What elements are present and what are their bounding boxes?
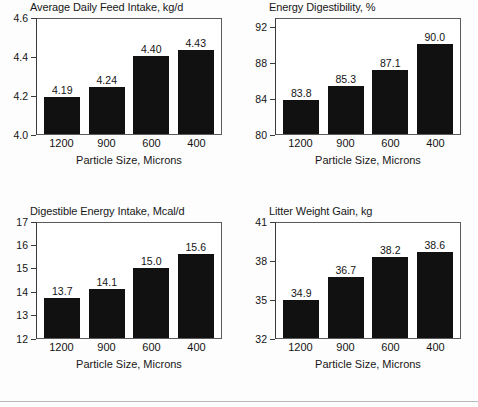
bar-value-label: 34.9 (291, 287, 311, 299)
bar: 15.0 (133, 268, 169, 338)
bar-series: 83.885.387.190.0 (276, 19, 460, 134)
x-axis-ticks: 1200900600400 (275, 340, 461, 355)
y-axis-tick-label: 15 (16, 263, 28, 274)
x-axis-tick-label: 400 (174, 340, 219, 355)
bar-series: 34.936.738.238.6 (276, 223, 460, 338)
y-axis-tick-label: 32 (255, 333, 267, 344)
bar-value-label: 83.8 (291, 87, 311, 99)
x-axis-tick-label: 600 (368, 136, 413, 151)
bar-value-label: 13.7 (52, 285, 72, 297)
x-axis-label: Particle Size, Microns (275, 154, 461, 167)
bar-value-label: 4.40 (141, 43, 161, 55)
x-axis-tick-label: 1200 (39, 340, 84, 355)
chart-panel-digestible-energy-intake: Digestible Energy Intake, Mcal/d 1213141… (0, 204, 239, 407)
bar-value-label: 4.24 (97, 74, 117, 86)
y-axis-tick-label: 80 (255, 129, 267, 140)
bar-slot: 4.43 (174, 19, 219, 134)
y-axis-tick-label: 38 (255, 255, 267, 266)
x-axis-tick-label: 400 (174, 136, 219, 151)
x-axis-tick-label: 600 (129, 340, 174, 355)
x-axis-tick-label: 1200 (39, 136, 84, 151)
bar: 4.24 (89, 87, 125, 134)
chart-title: Digestible Energy Intake, Mcal/d (30, 205, 185, 218)
chart-title: Average Daily Feed Intake, kg/d (30, 1, 183, 14)
bar-slot: 34.9 (279, 223, 324, 338)
page-separator-rule (0, 401, 478, 402)
y-axis: 4.04.24.44.6 (0, 18, 36, 135)
y-axis-tick-label: 92 (255, 21, 267, 32)
bar-slot: 15.6 (174, 223, 219, 338)
x-axis-label: Particle Size, Microns (36, 154, 222, 167)
y-axis-tick-label: 4.6 (13, 12, 28, 23)
bar-slot: 15.0 (129, 223, 174, 338)
y-axis-tick-label: 12 (16, 333, 28, 344)
bar-value-label: 15.0 (141, 255, 161, 267)
bar: 13.7 (44, 298, 80, 338)
chart-panel-litter-weight-gain: Litter Weight Gain, kg 32353841 34.936.7… (239, 204, 478, 407)
y-axis-tick-label: 4.0 (13, 129, 28, 140)
bar-value-label: 90.0 (425, 31, 445, 43)
y-axis-tick-label: 13 (16, 310, 28, 321)
bar-value-label: 85.3 (336, 73, 356, 85)
y-axis-tick-label: 17 (16, 216, 28, 227)
bar: 90.0 (417, 44, 453, 134)
x-axis-tick-label: 900 (323, 136, 368, 151)
bar-slot: 36.7 (324, 223, 369, 338)
bar: 38.6 (417, 252, 453, 338)
bar-slot: 83.8 (279, 19, 324, 134)
y-axis-tick-label: 14 (16, 286, 28, 297)
bar-slot: 4.19 (40, 19, 85, 134)
x-axis-tick-label: 600 (129, 136, 174, 151)
plot-area: 83.885.387.190.0 (275, 18, 461, 135)
plot-area: 34.936.738.238.6 (275, 222, 461, 339)
bar: 4.40 (133, 56, 169, 134)
bar-slot: 87.1 (368, 19, 413, 134)
bar-value-label: 4.19 (52, 84, 72, 96)
bar-value-label: 38.2 (380, 244, 400, 256)
bar: 4.19 (44, 97, 80, 134)
bar-slot: 4.40 (129, 19, 174, 134)
bar-slot: 38.2 (368, 223, 413, 338)
chart-title: Litter Weight Gain, kg (269, 205, 372, 218)
bar-value-label: 15.6 (186, 241, 206, 253)
y-axis-tick-label: 16 (16, 239, 28, 250)
x-axis-tick-label: 600 (368, 340, 413, 355)
x-axis-tick-label: 1200 (278, 136, 323, 151)
bar: 15.6 (178, 254, 214, 338)
plot-area: 4.194.244.404.43 (36, 18, 222, 135)
y-axis-tick-label: 88 (255, 57, 267, 68)
bar-value-label: 36.7 (336, 264, 356, 276)
bar-series: 13.714.115.015.6 (37, 223, 221, 338)
figure-panel-grid: Average Daily Feed Intake, kg/d 4.04.24.… (0, 0, 478, 407)
bar-slot: 90.0 (413, 19, 458, 134)
y-axis-tick-label: 4.2 (13, 90, 28, 101)
bar: 4.43 (178, 50, 214, 134)
y-axis-tick-label: 84 (255, 93, 267, 104)
bar: 14.1 (89, 289, 125, 338)
bar-value-label: 38.6 (425, 239, 445, 251)
x-axis-tick-label: 400 (413, 136, 458, 151)
y-axis-tick-label: 4.4 (13, 51, 28, 62)
bar-slot: 4.24 (85, 19, 130, 134)
bar-series: 4.194.244.404.43 (37, 19, 221, 134)
bar-value-label: 14.1 (97, 276, 117, 288)
bar: 36.7 (328, 277, 364, 338)
y-axis-tick-label: 35 (255, 294, 267, 305)
bar-slot: 14.1 (85, 223, 130, 338)
bar-value-label: 87.1 (380, 57, 400, 69)
bar: 87.1 (372, 70, 408, 134)
x-axis-tick-label: 1200 (278, 340, 323, 355)
plot-area: 13.714.115.015.6 (36, 222, 222, 339)
bar: 38.2 (372, 257, 408, 338)
bar-slot: 38.6 (413, 223, 458, 338)
x-axis-ticks: 1200900600400 (275, 136, 461, 151)
y-axis: 121314151617 (0, 222, 36, 339)
x-axis-tick-label: 900 (84, 340, 129, 355)
x-axis-tick-label: 900 (323, 340, 368, 355)
y-axis: 32353841 (239, 222, 275, 339)
bar-slot: 13.7 (40, 223, 85, 338)
x-axis-label: Particle Size, Microns (36, 358, 222, 371)
chart-panel-energy-digestibility: Energy Digestibility, % 80848892 83.885.… (239, 0, 478, 203)
chart-title: Energy Digestibility, % (269, 1, 375, 14)
x-axis-ticks: 1200900600400 (36, 340, 222, 355)
